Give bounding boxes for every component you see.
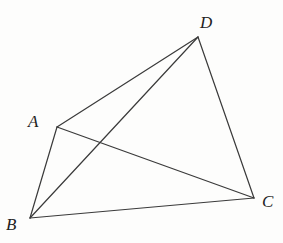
segment-dc [198, 37, 254, 198]
vertex-label-c: C [262, 193, 273, 210]
vertex-label-b: B [6, 216, 16, 233]
vertex-label-d: D [200, 14, 212, 31]
segment-ac [57, 127, 254, 198]
figure-svg [0, 0, 283, 243]
segment-ab [30, 127, 57, 218]
segment-bd [30, 37, 198, 218]
geometry-figure: D A B C [0, 0, 283, 243]
segment-bc [30, 198, 254, 218]
vertex-label-a: A [28, 113, 38, 130]
